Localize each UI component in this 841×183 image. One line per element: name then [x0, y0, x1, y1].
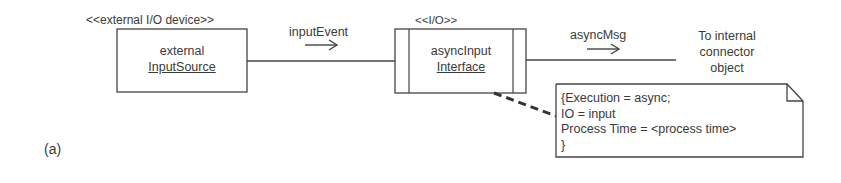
input-event-arrow-icon	[305, 40, 337, 50]
async-msg-label: asyncMsg	[570, 28, 626, 42]
input-event-label: inputEvent	[289, 25, 348, 39]
io-interface-name-line2: Interface	[409, 60, 513, 74]
async-msg-arrow-icon	[587, 44, 619, 54]
target-label-line3: object	[677, 60, 777, 76]
external-device-stereotype: <<external I/O device>>	[86, 13, 214, 27]
target-label: To internal connector object	[677, 28, 777, 76]
note-line2: IO = input	[561, 107, 736, 123]
io-interface-stereotype: <<I/O>>	[415, 14, 457, 26]
io-interface-name-line1: asyncInput	[409, 44, 513, 58]
external-device-name-line1: external	[117, 44, 247, 58]
target-label-line1: To internal	[677, 28, 777, 44]
note-line3: Process Time = <process time>	[561, 122, 736, 138]
constraint-note-text: {Execution = async; IO = input Process T…	[561, 91, 736, 153]
target-label-line2: connector	[677, 44, 777, 60]
note-line4: }	[561, 138, 736, 154]
note-line1: {Execution = async;	[561, 91, 736, 107]
external-device-name-line2: InputSource	[117, 60, 247, 74]
note-anchor-dashed-line	[494, 93, 556, 116]
figure-label: (a)	[44, 141, 61, 157]
